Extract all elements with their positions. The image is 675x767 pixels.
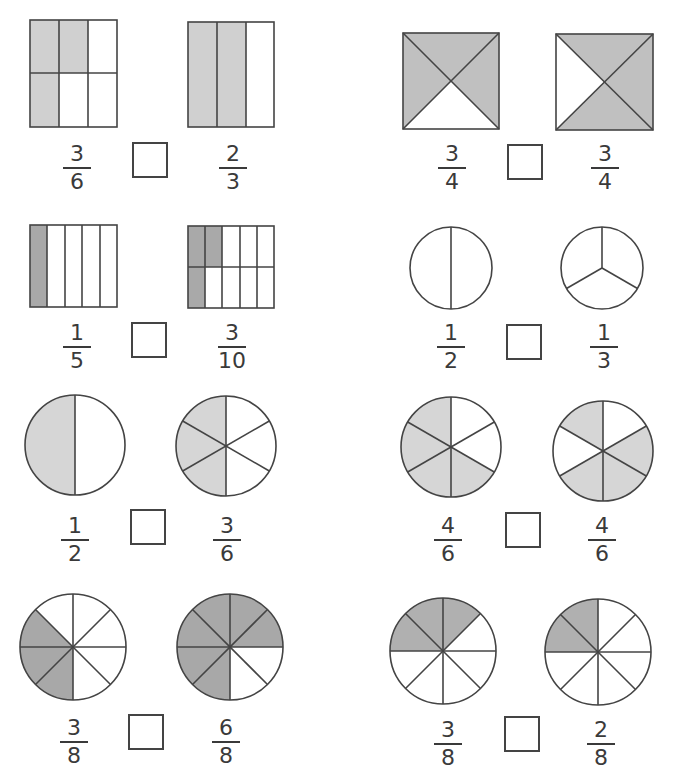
fraction-label: 1 2 <box>55 515 95 565</box>
numerator: 2 <box>581 719 621 741</box>
denominator: 10 <box>212 350 252 372</box>
fraction-label: 3 10 <box>212 322 252 372</box>
denominator: 2 <box>55 543 95 565</box>
fraction-label: 3 6 <box>57 143 97 193</box>
fraction-model-3-6-circle <box>176 396 276 496</box>
fraction-model-2-8-circle <box>545 599 651 705</box>
denominator: 8 <box>581 747 621 767</box>
answer-box-3[interactable] <box>131 322 167 358</box>
fraction-model-3-4-square-a <box>403 33 499 129</box>
fraction-model-1-5-strips <box>30 225 117 307</box>
numerator: 1 <box>584 322 624 344</box>
fraction-model-3-10-grid <box>188 226 274 308</box>
denominator: 4 <box>585 171 625 193</box>
denominator: 5 <box>57 350 97 372</box>
fraction-label: 6 8 <box>206 717 246 767</box>
numerator: 6 <box>206 717 246 739</box>
fraction-model-4-6-circle-b <box>553 401 653 501</box>
fraction-model-3-6-grid <box>30 20 117 127</box>
fraction-worksheet <box>0 0 675 767</box>
answer-box-5[interactable] <box>130 509 166 545</box>
answer-box-7[interactable] <box>128 714 164 750</box>
fraction-label: 4 6 <box>428 515 468 565</box>
fraction-model-3-4-square-b <box>556 34 653 130</box>
numerator: 2 <box>213 143 253 165</box>
fraction-model-3-8-circle-a <box>20 594 126 700</box>
fraction-label: 3 8 <box>54 717 94 767</box>
answer-box-6[interactable] <box>505 512 541 548</box>
denominator: 8 <box>428 747 468 767</box>
numerator: 3 <box>432 143 472 165</box>
denominator: 6 <box>582 543 622 565</box>
denominator: 8 <box>206 745 246 767</box>
numerator: 1 <box>55 515 95 537</box>
fraction-model-2-3-strips <box>188 22 274 127</box>
denominator: 4 <box>432 171 472 193</box>
numerator: 3 <box>207 515 247 537</box>
fraction-label: 3 6 <box>207 515 247 565</box>
numerator: 3 <box>212 322 252 344</box>
fraction-model-4-6-circle-a <box>401 397 501 497</box>
fraction-label: 3 8 <box>428 719 468 767</box>
fraction-label: 4 6 <box>582 515 622 565</box>
numerator: 3 <box>585 143 625 165</box>
answer-box-8[interactable] <box>504 716 540 752</box>
numerator: 3 <box>54 717 94 739</box>
denominator: 8 <box>54 745 94 767</box>
fraction-label: 2 8 <box>581 719 621 767</box>
answer-box-2[interactable] <box>507 144 543 180</box>
numerator: 1 <box>57 322 97 344</box>
denominator: 6 <box>428 543 468 565</box>
numerator: 1 <box>431 322 471 344</box>
fraction-label: 3 4 <box>585 143 625 193</box>
fraction-label: 3 4 <box>432 143 472 193</box>
numerator: 4 <box>428 515 468 537</box>
fraction-model-1-2-circle <box>25 395 125 495</box>
denominator: 6 <box>207 543 247 565</box>
denominator: 2 <box>431 350 471 372</box>
fraction-model-1-2-circle-unshaded <box>410 227 492 309</box>
answer-box-1[interactable] <box>132 142 168 178</box>
numerator: 3 <box>57 143 97 165</box>
fraction-label: 1 5 <box>57 322 97 372</box>
fraction-model-6-8-circle <box>177 594 283 700</box>
fraction-label: 2 3 <box>213 143 253 193</box>
fraction-label: 1 3 <box>584 322 624 372</box>
numerator: 3 <box>428 719 468 741</box>
fraction-model-1-3-circle-unshaded <box>561 227 643 309</box>
fraction-model-3-8-circle-b <box>390 598 496 704</box>
denominator: 3 <box>213 171 253 193</box>
denominator: 3 <box>584 350 624 372</box>
answer-box-4[interactable] <box>506 324 542 360</box>
fraction-label: 1 2 <box>431 322 471 372</box>
numerator: 4 <box>582 515 622 537</box>
denominator: 6 <box>57 171 97 193</box>
